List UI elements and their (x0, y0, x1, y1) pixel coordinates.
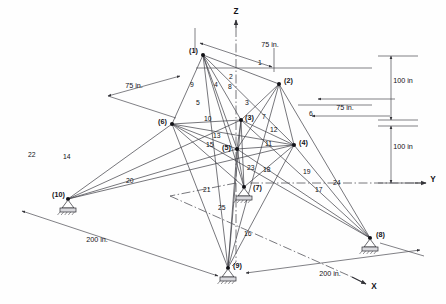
support-hatch (367, 251, 370, 254)
member-label-15: 15 (206, 141, 214, 148)
member-label-9: 9 (190, 81, 194, 88)
support-hatch (248, 200, 251, 203)
member-label-4: 4 (214, 81, 218, 88)
dimension-label-bottom-200: 200 in. (319, 269, 341, 278)
member-label-12: 12 (270, 126, 278, 133)
space-truss-figure: (1)(2)(3)(4)(5)(6)(7)(8)(9)(10)123456789… (0, 0, 446, 304)
joint-marker (277, 82, 281, 86)
truss-member (172, 55, 203, 124)
member-label-17: 17 (315, 186, 323, 193)
joint-label-5: (5) (222, 143, 231, 152)
support-base (362, 247, 378, 251)
coordinate-axes (170, 20, 426, 284)
pin-support-icon (62, 200, 74, 208)
truss-member (172, 124, 244, 187)
member-label-22: 22 (28, 151, 36, 158)
support-hatch (363, 251, 366, 254)
member-label-5: 5 (196, 99, 200, 106)
truss-member (203, 55, 241, 120)
joint-label-2: (2) (284, 76, 293, 85)
joint-label-8: (8) (376, 230, 385, 239)
truss-members (68, 55, 370, 268)
support-hatch (374, 251, 377, 254)
dimension-lines (22, 28, 424, 276)
joint-label-4: (4) (299, 138, 308, 147)
joint-label-10: (10) (52, 190, 65, 199)
truss-diagram-svg: (1)(2)(3)(4)(5)(6)(7)(8)(9)(10)123456789… (0, 0, 446, 304)
support-hatch (65, 212, 68, 215)
truss-member (237, 84, 279, 149)
member-label-18: 18 (263, 166, 271, 173)
member-label-8: 8 (228, 83, 232, 90)
member-label-2: 2 (229, 73, 233, 80)
support-hatch (68, 212, 71, 215)
dimension-label-lower-100: 100 in (393, 142, 413, 151)
axis-label-y: Y (430, 175, 436, 184)
pin-support-icon (364, 239, 376, 247)
support-hatch (218, 281, 221, 284)
joint-marker (201, 53, 205, 57)
truss-member (68, 149, 237, 199)
axis-label-x: X (371, 282, 377, 291)
dimension-label-right-75: 75 in. (336, 103, 354, 112)
support-hatch (237, 200, 240, 203)
support-hatch (360, 251, 363, 254)
member-label-24: 24 (333, 179, 341, 186)
member-label-14: 14 (63, 153, 71, 160)
support-hatch (228, 281, 231, 284)
support-base (236, 196, 252, 200)
axis-label-z: Z (233, 7, 238, 16)
joint-label-9: (9) (233, 261, 242, 270)
joint-marker (170, 122, 174, 126)
joint-marker (292, 143, 296, 147)
dimension-label-top-right-75: 75 in. (261, 40, 279, 49)
joint-label-3: (3) (245, 113, 254, 122)
member-label-11: 11 (265, 140, 272, 147)
truss-member (294, 145, 370, 238)
member-label-21: 21 (203, 186, 211, 193)
pin-support-icon (238, 188, 250, 196)
joint-marker (239, 118, 243, 122)
support-hatch (370, 251, 373, 254)
support-hatch (61, 212, 64, 215)
pin-support-icon (222, 269, 234, 277)
member-label-19: 19 (303, 168, 311, 175)
member-label-23: 23 (247, 164, 255, 171)
support-hatch (72, 212, 75, 215)
member-label-1: 1 (258, 59, 262, 66)
truss-member (68, 124, 172, 199)
member-label-16: 16 (244, 230, 252, 237)
joint-label-1: (1) (189, 46, 198, 55)
member-label-13: 13 (213, 132, 221, 139)
support-hatch (225, 281, 228, 284)
member-label-20: 20 (126, 177, 134, 184)
member-label-7: 7 (262, 113, 266, 120)
support-base (60, 208, 76, 212)
truss-member (203, 55, 279, 84)
support-hatch (241, 200, 244, 203)
support-hatch (58, 212, 61, 215)
truss-member (228, 145, 294, 268)
joint-label-7: (7) (253, 183, 262, 192)
member-label-10: 10 (204, 115, 212, 122)
support-hatch (221, 281, 224, 284)
member-label-3: 3 (245, 99, 249, 106)
joint-marker (235, 147, 239, 151)
support-base (220, 277, 236, 281)
member-label-25: 25 (218, 204, 226, 211)
dimension-label-left-200: 200 in. (86, 235, 108, 244)
joint-label-6: (6) (158, 117, 167, 126)
truss-member (279, 84, 294, 145)
truss-member (279, 84, 370, 238)
dimension-label-left-75: 75 in. (125, 81, 143, 90)
dimension-label-upper-100: 100 in (393, 76, 413, 85)
support-hatch (232, 281, 235, 284)
member-label-6: 6 (309, 110, 313, 117)
